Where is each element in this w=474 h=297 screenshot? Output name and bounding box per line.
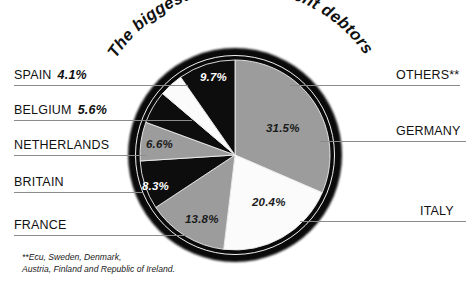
leader-line-italy xyxy=(300,221,466,222)
slice-value-netherlands: 6.6% xyxy=(146,138,173,150)
label-spain-value: 4.1% xyxy=(58,68,87,82)
slice-value-britain: 8.3% xyxy=(142,180,169,192)
chart-canvas: The biggest EU government debtors 9.7% 3… xyxy=(0,0,474,297)
label-germany-text: GERMANY xyxy=(396,124,461,138)
chart-footnote: **Ecu, Sweden, Denmark, Austria, Finland… xyxy=(22,252,175,275)
label-italy-text: ITALY xyxy=(420,204,454,218)
leader-line-france xyxy=(14,235,186,236)
leader-line-germany xyxy=(320,141,466,142)
slice-value-others: 9.7% xyxy=(200,71,227,83)
label-netherlands-text: NETHERLANDS xyxy=(14,138,109,152)
svg-text:The biggest EU government debt: The biggest EU government debtors xyxy=(103,0,377,61)
leader-line-netherlands xyxy=(14,155,146,156)
label-spain: SPAIN4.1% xyxy=(14,68,87,82)
label-others-text: OTHERS** xyxy=(396,68,459,82)
label-italy: ITALY xyxy=(420,204,454,218)
label-belgium-text: BELGIUM xyxy=(14,103,72,117)
leader-line-britain xyxy=(14,192,142,193)
leader-line-spain xyxy=(14,85,188,86)
label-others: OTHERS** xyxy=(396,68,459,82)
label-france-text: FRANCE xyxy=(14,218,67,232)
slice-value-italy: 20.4% xyxy=(252,196,286,208)
chart-title-text: The biggest EU government debtors xyxy=(103,0,377,61)
label-germany: GERMANY xyxy=(396,124,461,138)
label-spain-text: SPAIN xyxy=(14,68,52,82)
slice-value-france: 13.8% xyxy=(185,213,219,225)
label-britain: BRITAIN xyxy=(14,175,64,189)
leader-line-others xyxy=(290,85,460,86)
label-belgium: BELGIUM5.6% xyxy=(14,103,107,117)
chart-title: The biggest EU government debtors xyxy=(96,8,386,92)
label-belgium-value: 5.6% xyxy=(78,103,107,117)
label-netherlands: NETHERLANDS xyxy=(14,138,109,152)
label-france: FRANCE xyxy=(14,218,67,232)
label-britain-text: BRITAIN xyxy=(14,175,64,189)
leader-line-belgium xyxy=(14,120,192,121)
slice-value-germany: 31.5% xyxy=(266,122,300,134)
